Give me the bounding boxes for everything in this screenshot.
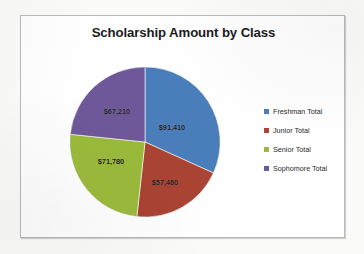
pie-slice-sophomore[interactable] bbox=[70, 67, 145, 142]
slice-label-sophomore: $67,210 bbox=[104, 107, 130, 116]
chart-legend: Freshman Total Junior Total Senior Total… bbox=[264, 103, 342, 179]
legend-label-senior: Senior Total bbox=[273, 145, 311, 154]
chart-title: Scholarship Amount by Class bbox=[21, 25, 346, 40]
slice-label-junior: $57,460 bbox=[152, 178, 178, 187]
slice-label-senior: $71,780 bbox=[98, 157, 124, 166]
legend-label-junior: Junior Total bbox=[273, 126, 310, 135]
legend-swatch-icon-freshman bbox=[264, 109, 269, 114]
legend-swatch-icon-junior bbox=[264, 128, 269, 133]
legend-swatch-icon-senior bbox=[264, 147, 269, 152]
legend-item-senior[interactable]: Senior Total bbox=[264, 141, 342, 157]
pie-svg bbox=[70, 67, 220, 217]
pie-chart: $91,410 $57,460 $71,780 $67,210 bbox=[70, 67, 220, 217]
pie-slice-senior[interactable] bbox=[70, 134, 145, 216]
legend-item-junior[interactable]: Junior Total bbox=[264, 122, 342, 138]
legend-label-sophomore: Sophomore Total bbox=[273, 164, 327, 173]
legend-item-freshman[interactable]: Freshman Total bbox=[264, 103, 342, 119]
slice-label-freshman: $91,410 bbox=[159, 123, 185, 132]
chart-frame: Scholarship Amount by Class $91,410 $57,… bbox=[20, 15, 345, 238]
legend-item-sophomore[interactable]: Sophomore Total bbox=[264, 160, 342, 176]
legend-swatch-icon-sophomore bbox=[264, 166, 269, 171]
legend-label-freshman: Freshman Total bbox=[273, 107, 322, 116]
